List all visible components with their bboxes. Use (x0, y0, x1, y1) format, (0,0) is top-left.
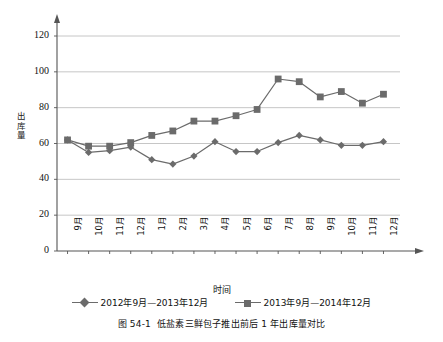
diamond-marker (380, 138, 387, 145)
square-marker (191, 118, 198, 125)
square-marker (64, 137, 71, 144)
diamond-marker (211, 138, 218, 145)
legend-label-series2: 2013年9月—2014年12月 (264, 296, 372, 309)
x-tick-label: 4月 (220, 216, 231, 256)
square-marker-icon (235, 298, 261, 308)
diamond-marker (317, 136, 324, 143)
diamond-marker (85, 149, 92, 156)
y-axis-arrow (54, 14, 60, 23)
x-axis-title: 时间 (0, 283, 443, 296)
diamond-marker (296, 132, 303, 139)
square-marker (212, 118, 219, 125)
x-tick-label: 9月 (326, 216, 337, 256)
x-tick-label: 3月 (199, 216, 210, 256)
y-tick-label: 120 (23, 29, 49, 40)
y-tick-label: 100 (23, 65, 49, 76)
x-tick-label: 10月 (94, 216, 105, 256)
square-marker (296, 78, 303, 85)
x-tick-label: 11月 (115, 216, 126, 256)
gridlines-group (57, 36, 400, 215)
square-marker (317, 94, 324, 101)
square-marker (233, 112, 240, 119)
square-marker (127, 139, 134, 146)
diamond-marker (232, 148, 239, 155)
x-tick-label: 5月 (242, 216, 253, 256)
legend-item-series2: 2013年9月—2014年12月 (235, 296, 372, 309)
diamond-marker-icon (72, 298, 98, 308)
square-marker (85, 143, 92, 150)
series-line-2 (68, 79, 384, 146)
square-marker (148, 132, 155, 139)
x-tick-label: 10月 (347, 216, 358, 256)
figure-caption: 图 54-1低盐素三鲜包子推出前后 1 年出库量对比 (0, 317, 443, 330)
x-tick-label: 11月 (368, 216, 379, 256)
square-marker (338, 88, 345, 95)
diamond-marker (169, 161, 176, 168)
legend-item-series1: 2012年9月—2013年12月 (72, 296, 209, 309)
square-marker (359, 100, 366, 107)
series-group (64, 76, 387, 168)
diamond-marker (190, 152, 197, 159)
square-marker (169, 128, 176, 135)
legend-label-series1: 2012年9月—2013年12月 (101, 296, 209, 309)
diamond-marker (148, 156, 155, 163)
chart-legend: 2012年9月—2013年12月 2013年9月—2014年12月 (0, 296, 443, 309)
x-tick-label: 12月 (389, 216, 400, 256)
x-tick-label: 9月 (73, 216, 84, 256)
diamond-marker (253, 148, 260, 155)
x-tick-label: 1月 (157, 216, 168, 256)
y-tick-label: 40 (23, 172, 49, 183)
x-tick-label: 6月 (263, 216, 274, 256)
diamond-marker (359, 142, 366, 149)
x-tick-label: 8月 (305, 216, 316, 256)
x-axis-arrow (415, 248, 424, 254)
square-marker (275, 76, 282, 83)
y-tick-label: 60 (23, 137, 49, 148)
square-marker (254, 106, 261, 113)
diamond-marker (275, 139, 282, 146)
square-marker (106, 143, 113, 150)
x-tick-label: 2月 (178, 216, 189, 256)
y-tick-label: 20 (23, 208, 49, 219)
figure-caption-text: 低盐素三鲜包子推出前后 1 年出库量对比 (157, 319, 325, 329)
square-marker (380, 91, 387, 98)
y-tick-label: 80 (23, 101, 49, 112)
x-tick-label: 12月 (136, 216, 147, 256)
figure-caption-number: 图 54-1 (118, 319, 152, 329)
figure-container: 出 库 量 020406080100120 9月10月11月12月1月2月3月4… (0, 0, 443, 342)
y-tick-label: 0 (23, 244, 49, 255)
series-line-1 (68, 135, 384, 164)
x-tick-label: 7月 (284, 216, 295, 256)
diamond-marker (338, 142, 345, 149)
